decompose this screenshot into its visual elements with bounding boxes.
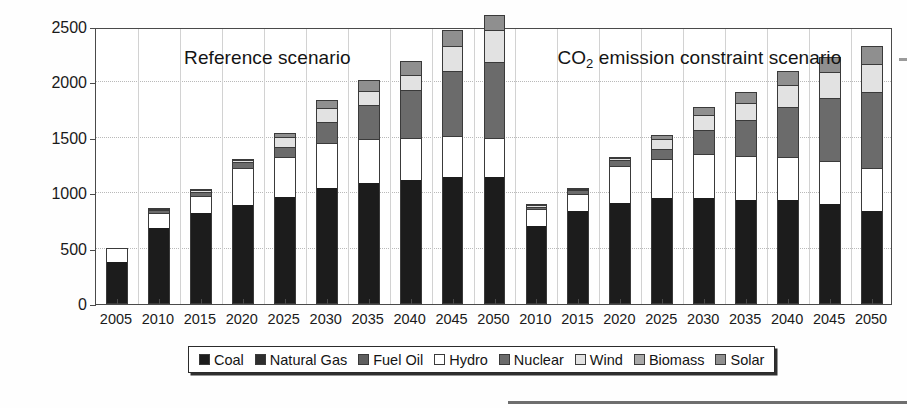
bar-segment-nuclear [526, 207, 548, 209]
bar-stack [651, 135, 673, 304]
x-axis-tick-mark [285, 299, 286, 304]
legend-label: Nuclear [514, 352, 564, 368]
gridline-vertical [474, 29, 475, 304]
bar-segment-coal [693, 198, 715, 304]
bar-segment-hydro [190, 196, 212, 213]
bar-segment-coal [735, 200, 757, 304]
x-axis-tick-mark [243, 299, 244, 304]
x-axis-tick-label: 2040 [771, 311, 803, 327]
bar-segment-wind [609, 158, 631, 160]
x-axis-tick-label: 2015 [184, 311, 216, 327]
gridline-vertical [264, 29, 265, 304]
gridline-vertical [348, 29, 349, 304]
bar-segment-nuclear [777, 107, 799, 157]
bar-segment-hydro [232, 168, 254, 205]
page-rule-divider [508, 401, 907, 404]
bar-segment-wind [861, 64, 883, 93]
legend-swatch-biomass [634, 354, 645, 365]
legend-label: Biomass [649, 352, 705, 368]
x-axis-tick-mark [788, 299, 789, 304]
legend-item: Coal [199, 352, 244, 368]
legend-item: Wind [575, 352, 623, 368]
bar-segment-wind [693, 115, 715, 129]
bar-segment-hydro [735, 156, 757, 200]
gridline-vertical [432, 29, 433, 304]
bar-segment-hydro [316, 143, 338, 187]
legend-label: Natural Gas [270, 352, 347, 368]
bar-stack [861, 46, 883, 304]
bar-stack [148, 209, 170, 304]
bar-segment-coal [148, 228, 170, 304]
gridline-vertical [767, 29, 768, 304]
gridline-vertical [599, 29, 600, 304]
legend-label: Coal [214, 352, 244, 368]
chart-figure: Capacity (GW) 05001000150020002500 Refer… [0, 0, 907, 408]
bar-stack [358, 80, 380, 304]
bar-segment-wind [358, 91, 380, 105]
gridline-vertical [683, 29, 684, 304]
bar-segment-hydro [274, 157, 296, 197]
bar-segment-coal [861, 211, 883, 304]
bar-segment-hydro [442, 136, 464, 177]
bar-segment-solar [861, 46, 883, 63]
bar-segment-nuclear [442, 71, 464, 135]
bar-segment-wind [232, 160, 254, 162]
y-axis-tick-label: 0 [17, 296, 87, 314]
bar-segment-coal [358, 183, 380, 304]
bar-segment-nuclear [567, 190, 589, 194]
gridline-vertical [641, 29, 642, 304]
bar-segment-coal [777, 200, 799, 304]
bar-segment-wind [777, 85, 799, 107]
bar-segment-nuclear [819, 98, 841, 160]
bar-stack [735, 92, 757, 304]
bar-segment-solar [609, 157, 631, 158]
gridline-vertical [725, 29, 726, 304]
bar-stack [106, 248, 128, 305]
bar-segment-solar [484, 15, 506, 31]
legend-swatch-nuclear [499, 354, 510, 365]
bar-segment-coal [274, 197, 296, 304]
bar-segment-wind [567, 189, 589, 191]
bar-segment-hydro [484, 138, 506, 177]
y-axis-tick-label: 500 [17, 241, 87, 259]
x-axis-tick-mark [117, 299, 118, 304]
x-axis-tick-label: 2025 [645, 311, 677, 327]
bar-segment-nuclear [358, 105, 380, 139]
bar-segment-solar [400, 61, 422, 75]
y-axis-tick-mark [90, 305, 96, 306]
bar-segment-nuclear [484, 62, 506, 137]
bar-segment-solar [148, 208, 170, 209]
bar-segment-coal [400, 180, 422, 304]
bar-segment-hydro [148, 213, 170, 229]
x-axis-tick-label: 2035 [352, 311, 384, 327]
bar-segment-coal [484, 177, 506, 304]
bar-segment-solar [274, 133, 296, 137]
plot-area: Reference scenario CO2 emission constrai… [95, 28, 892, 305]
x-axis-tick-mark [327, 299, 328, 304]
bar-segment-wind [400, 75, 422, 89]
bar-segment-solar [651, 135, 673, 139]
x-axis-tick-mark [159, 299, 160, 304]
bar-segment-solar [693, 107, 715, 115]
chart-legend: CoalNatural GasFuel OilHydroNuclearWindB… [188, 346, 775, 373]
x-axis-tick-label: 2005 [100, 311, 132, 327]
bar-segment-hydro [567, 194, 589, 211]
bar-segment-nuclear [735, 120, 757, 157]
bar-segment-nuclear [232, 162, 254, 168]
bar-segment-hydro [526, 209, 548, 226]
bar-segment-hydro [400, 138, 422, 180]
bar-stack [484, 15, 506, 304]
bar-segment-coal [232, 205, 254, 304]
x-axis-tick-label: 2050 [477, 311, 509, 327]
gridline-vertical [180, 29, 181, 304]
x-axis-tick-label: 2015 [561, 311, 593, 327]
legend-label: Solar [730, 352, 764, 368]
bar-stack [190, 189, 212, 304]
bar-segment-wind [148, 209, 170, 210]
gridline-vertical [306, 29, 307, 304]
bar-segment-nuclear [274, 147, 296, 157]
x-axis-tick-mark [830, 299, 831, 304]
bar-segment-solar [358, 80, 380, 91]
x-axis-tick-label: 2010 [519, 311, 551, 327]
bar-segment-solar [442, 30, 464, 46]
